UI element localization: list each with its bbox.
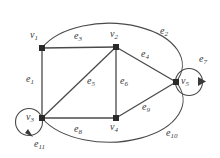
edge-label-e1: e1 (26, 74, 34, 86)
edge-label-e7: e7 (199, 54, 207, 66)
edge-label-e9: e9 (142, 102, 150, 114)
edge-e3-line (42, 47, 116, 48)
vertex-v5[interactable] (173, 79, 179, 85)
edge-label-e5: e5 (87, 76, 95, 88)
vertex-v2[interactable] (113, 44, 119, 50)
edge-e5-line (42, 47, 116, 118)
edge-label-e6: e6 (120, 76, 128, 88)
edge-label-e2: e2 (160, 26, 168, 38)
vertex-label-v4: v4 (110, 122, 118, 134)
graph-figure: v1 v2 v3 v4 v5 e1 e2 e3 e4 e5 e6 e7 e8 e… (0, 0, 220, 158)
edge-label-e8: e8 (74, 124, 82, 136)
vertex-label-v5: v5 (181, 76, 189, 88)
edge-label-e4: e4 (141, 49, 149, 61)
vertex-label-v2: v2 (110, 29, 118, 41)
edge-label-e3: e3 (74, 31, 82, 43)
vertex-label-v3: v3 (26, 112, 34, 124)
vertex-v1[interactable] (39, 45, 45, 51)
edge-label-e10: e10 (166, 128, 177, 140)
vertex-label-v1: v1 (30, 30, 38, 42)
vertex-v3[interactable] (39, 115, 45, 121)
edge-label-e11: e11 (34, 139, 45, 151)
